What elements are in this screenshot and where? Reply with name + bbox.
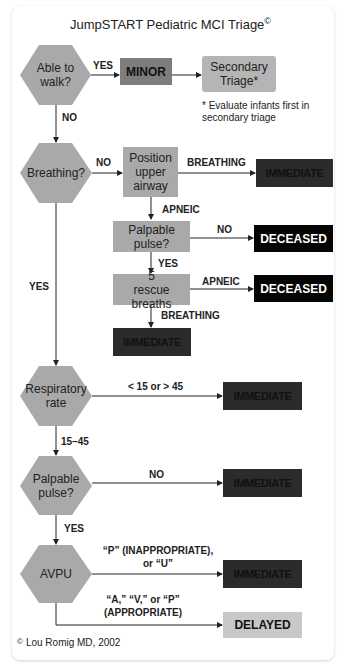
- edge-walk-yes: YES: [93, 60, 113, 71]
- edge-pulse-no: NO: [217, 224, 232, 235]
- box-immediate-3: IMMEDIATE: [223, 382, 302, 410]
- box-deceased-2: DECEASED: [254, 275, 333, 302]
- edge-rate-normal: 15–45: [61, 436, 89, 447]
- edge-avpu-appropriate-1: “A,” “V,” or “P”: [98, 594, 188, 605]
- box-immediate-5: IMMEDIATE: [223, 560, 302, 588]
- edge-rescue-breathing: BREATHING: [161, 310, 220, 321]
- box-secondary-triage: Secondary Triage*: [202, 56, 276, 92]
- edge-pulse-yes: YES: [158, 258, 178, 269]
- edge-breathing-no: NO: [96, 157, 111, 168]
- edge-avpu-appropriate-2: (APPROPRIATE): [98, 607, 188, 618]
- box-immediate-4: IMMEDIATE: [223, 469, 302, 497]
- edge-rescue-apneic: APNEIC: [202, 276, 240, 287]
- edge-breathing-yes: YES: [29, 281, 49, 292]
- edge-hex-pulse-yes: YES: [64, 523, 84, 534]
- box-position-airway: Position upper airway: [123, 147, 178, 197]
- node-palpable-pulse-hex: Palpable pulse?: [26, 456, 86, 515]
- box-deceased-1: DECEASED: [254, 225, 333, 252]
- edge-rate-abnormal: < 15 or > 45: [128, 381, 183, 392]
- chart-title: JumpSTART Pediatric MCI Triage©: [0, 16, 341, 32]
- edge-hex-pulse-no: NO: [149, 469, 164, 480]
- box-rescue-breaths: 5 rescue breaths: [113, 274, 190, 305]
- edge-airway-apneic: APNEIC: [162, 204, 200, 215]
- box-palpable-pulse: Palpable pulse?: [113, 221, 190, 252]
- box-immediate-2: IMMEDIATE: [113, 328, 191, 356]
- box-minor: MINOR: [120, 58, 172, 85]
- footnote: * Evaluate infants first in secondary tr…: [202, 100, 332, 124]
- copyright-footer: ©Lou Romig MD, 2002: [17, 637, 120, 648]
- edge-avpu-inappropriate-1: “P” (INAPPROPRIATE),: [98, 545, 218, 556]
- box-immediate-1: IMMEDIATE: [256, 159, 333, 187]
- node-avpu: AVPU: [20, 545, 92, 603]
- node-able-to-walk: Able to walk?: [20, 45, 91, 105]
- box-delayed: DELAYED: [223, 612, 302, 638]
- edge-walk-no: NO: [62, 112, 77, 123]
- edge-airway-breathing: BREATHING: [187, 157, 246, 168]
- node-breathing: Breathing?: [20, 143, 92, 203]
- edge-avpu-inappropriate-2: or “U”: [98, 558, 218, 569]
- node-respiratory-rate: Respiratory rate: [22, 366, 90, 426]
